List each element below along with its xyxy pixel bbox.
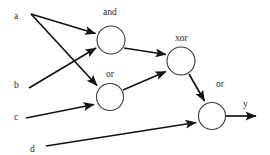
input-label-c: c — [14, 113, 18, 123]
gate-node-xor[interactable] — [167, 47, 195, 75]
gate-label-or1: or — [106, 70, 114, 80]
gate-node-or2[interactable] — [199, 103, 226, 130]
edge-or1-to-xor — [123, 72, 166, 91]
output-label-y: y — [243, 100, 248, 110]
edge-d-to-or2 — [46, 123, 196, 147]
input-label-b: b — [14, 81, 19, 91]
gate-node-or1[interactable] — [97, 84, 124, 111]
edge-and-to-xor — [124, 48, 166, 55]
gate-node-and[interactable] — [97, 26, 125, 54]
logic-gate-diagram: and or xor or a b c d y — [0, 0, 270, 155]
gate-label-and: and — [103, 8, 117, 18]
gate-label-or2: or — [216, 80, 224, 90]
input-label-d: d — [30, 145, 35, 155]
edge-c-to-or1 — [26, 105, 94, 119]
diagram-canvas — [0, 0, 270, 155]
input-label-a: a — [14, 12, 18, 22]
edge-b-to-and — [29, 48, 96, 88]
edge-xor-to-or2 — [189, 74, 205, 101]
gate-label-xor: xor — [175, 34, 188, 44]
gate-node-group — [97, 26, 226, 130]
